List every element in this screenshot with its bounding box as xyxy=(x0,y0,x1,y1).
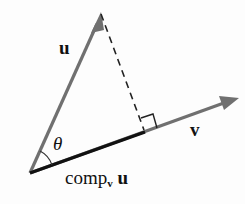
label-comp-v-u: compv u xyxy=(65,168,128,189)
right-angle-marker xyxy=(141,114,157,128)
perpendicular-dashed-line xyxy=(101,14,144,130)
projection-diagram: u v θ compv u xyxy=(0,0,245,204)
vector-v-arrowhead xyxy=(219,96,239,110)
comp-text: comp xyxy=(65,167,107,188)
label-v: v xyxy=(190,120,200,139)
label-u: u xyxy=(59,38,70,57)
angle-theta-arc xyxy=(40,151,52,165)
comp-vector-u: u xyxy=(113,167,128,188)
label-theta: θ xyxy=(53,134,62,153)
